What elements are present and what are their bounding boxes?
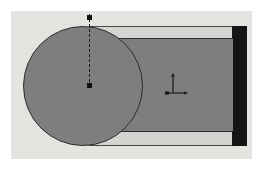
centerline	[89, 14, 90, 87]
datum-point-top-icon	[87, 15, 92, 20]
end-block	[232, 26, 247, 146]
drawing-canvas	[0, 0, 264, 171]
end-slot	[221, 38, 233, 132]
drawing-area	[11, 11, 252, 159]
coordinate-axis-icon	[162, 71, 192, 99]
circular-head	[23, 26, 143, 146]
datum-point-center-icon	[87, 83, 92, 88]
drawing-frame	[11, 11, 252, 159]
